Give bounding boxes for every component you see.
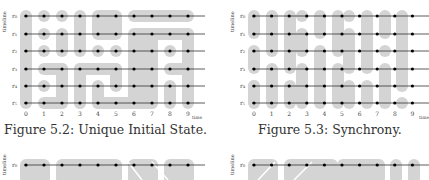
row-label: r₀ [12,161,18,168]
xlabel-left: time [192,115,203,120]
col-label: 4 [96,110,100,117]
row-label: r₄ [12,82,18,89]
figures-canvas: timeline timeline timeline timeline time… [0,0,429,180]
xlabel-right: time [419,115,429,120]
figure-synchrony [248,10,408,109]
col-label: 1 [42,110,46,117]
row-label: r₃ [12,65,18,72]
col-label: 7 [150,110,154,117]
col-label: 7 [375,110,379,117]
row-label: r₁ [240,30,245,37]
col-label: 5 [340,110,344,117]
col-labels: 01234567890123456789 [24,110,414,117]
col-label: 1 [270,110,274,117]
ylabel-bottom-right: timeline [229,154,235,175]
col-label: 8 [393,110,397,117]
row-label: r₂ [12,47,18,54]
row-label: r₀ [240,12,246,19]
col-label: 5 [114,110,118,117]
row-label: r₅ [240,99,246,106]
col-label: 9 [186,110,190,117]
ylabel-right: timeline [229,11,235,32]
ylabel-left: timeline [1,11,7,32]
row-label: r₁ [12,30,17,37]
caption-figure-5-3: Figure 5.3: Synchrony. [258,122,402,137]
figure-unique-initial-state [20,10,194,109]
row-label: r₃ [240,65,246,72]
figure-5-5-partial [248,159,420,180]
col-label: 3 [78,110,82,117]
row-label: r₀ [240,161,246,168]
col-label: 2 [60,110,64,117]
caption-figure-5-2: Figure 5.2: Unique Initial State. [4,122,207,137]
col-label: 2 [287,110,291,117]
col-label: 0 [252,110,256,117]
row-label: r₂ [240,47,246,54]
col-label: 6 [358,110,362,117]
row-label: r₄ [240,82,246,89]
col-label: 8 [168,110,172,117]
ylabel-bottom-left: timeline [1,154,7,175]
col-label: 9 [410,110,414,117]
figure-5-4-partial [20,159,194,180]
col-label: 0 [24,110,28,117]
col-label: 6 [132,110,136,117]
row-label: r₅ [12,99,18,106]
col-label: 3 [305,110,309,117]
col-label: 4 [322,110,326,117]
row-label: r₀ [12,12,18,19]
